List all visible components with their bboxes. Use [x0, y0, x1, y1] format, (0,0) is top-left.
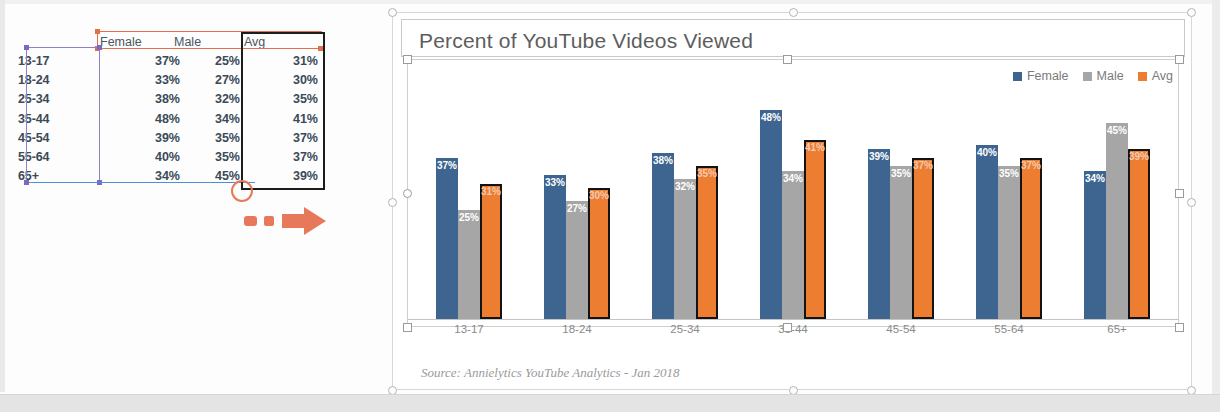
- bar-avg[interactable]: 41%: [804, 101, 826, 319]
- bar-value-label: 33%: [544, 177, 566, 188]
- bar-female[interactable]: 33%: [544, 101, 566, 319]
- bar-group[interactable]: 38%32%35%: [631, 101, 739, 319]
- table-header-cell: Male: [174, 35, 234, 49]
- bar-avg[interactable]: 30%: [588, 101, 610, 319]
- bar-male[interactable]: 35%: [890, 101, 912, 319]
- bar-fill: [1020, 158, 1042, 319]
- plot-selection-handle[interactable]: [403, 323, 412, 332]
- bar-avg[interactable]: 35%: [696, 101, 718, 319]
- plot-selection-handle[interactable]: [403, 189, 412, 198]
- x-axis-line: [407, 319, 1179, 320]
- bar-female[interactable]: 38%: [652, 101, 674, 319]
- bar-fill: [912, 158, 934, 319]
- bar-fill: [544, 175, 566, 319]
- table-cell-male[interactable]: 32%: [184, 92, 240, 106]
- table-cell-female[interactable]: 48%: [96, 112, 180, 126]
- bar-value-label: 40%: [976, 147, 998, 158]
- bar-value-label: 30%: [588, 190, 610, 201]
- x-axis-tick-label: 45-54: [847, 323, 955, 335]
- chart-legend[interactable]: FemaleMaleAvg: [1013, 69, 1173, 83]
- bar-value-label: 37%: [436, 160, 458, 171]
- object-resize-handle[interactable]: [388, 8, 397, 17]
- bar-group[interactable]: 33%27%30%: [523, 101, 631, 319]
- table-cell-male[interactable]: 27%: [184, 73, 240, 87]
- plot-selection-handle[interactable]: [403, 55, 412, 64]
- bar-female[interactable]: 48%: [760, 101, 782, 319]
- bar-female[interactable]: 40%: [976, 101, 998, 319]
- bar-male[interactable]: 45%: [1106, 101, 1128, 319]
- table-cell-male[interactable]: 34%: [184, 112, 240, 126]
- legend-item-male[interactable]: Male: [1083, 69, 1124, 83]
- bar-value-label: 25%: [458, 212, 480, 223]
- selection-handle[interactable]: [97, 45, 102, 50]
- selection-handle[interactable]: [24, 180, 29, 185]
- table-cell-female[interactable]: 37%: [96, 54, 180, 68]
- table-cell-female[interactable]: 38%: [96, 92, 180, 106]
- x-axis-tick-label: 18-24: [523, 323, 631, 335]
- table-cell-male[interactable]: 35%: [184, 150, 240, 164]
- plot-selection-handle[interactable]: [1175, 323, 1184, 332]
- bar-avg[interactable]: 37%: [912, 101, 934, 319]
- legend-label: Female: [1027, 69, 1069, 83]
- x-axis-tick-label: 13-17: [415, 323, 523, 335]
- bar-group[interactable]: 48%34%41%: [739, 101, 847, 319]
- value-range-selection-line: [32, 182, 255, 183]
- document-page: FemaleMaleAvg13-1737%25%31%18-2433%27%30…: [0, 0, 1220, 412]
- bar-male[interactable]: 27%: [566, 101, 588, 319]
- plot-selection-handle[interactable]: [1175, 189, 1184, 198]
- x-axis-tick-label: 55-64: [955, 323, 1063, 335]
- chart-title[interactable]: Percent of YouTube Videos Viewed: [419, 29, 753, 53]
- legend-item-avg[interactable]: Avg: [1138, 69, 1173, 83]
- bar-avg[interactable]: 31%: [480, 101, 502, 319]
- bar-female[interactable]: 39%: [868, 101, 890, 319]
- bar-avg[interactable]: 39%: [1128, 101, 1150, 319]
- table-cell-male[interactable]: 35%: [184, 131, 240, 145]
- bar-fill: [976, 145, 998, 319]
- bar-group[interactable]: 39%35%37%: [847, 101, 955, 319]
- header-selection-handle[interactable]: [95, 29, 100, 34]
- category-range-selection[interactable]: [26, 47, 100, 183]
- table-cell-female[interactable]: 40%: [96, 150, 180, 164]
- bar-group[interactable]: 34%45%39%: [1063, 101, 1171, 319]
- circle-highlight-annotation: [231, 180, 253, 202]
- bar-female[interactable]: 37%: [436, 101, 458, 319]
- bar-female[interactable]: 34%: [1084, 101, 1106, 319]
- x-axis-tick-label: 25-34: [631, 323, 739, 335]
- bar-male[interactable]: 35%: [998, 101, 1020, 319]
- x-axis-tick-label: 35-44: [739, 323, 847, 335]
- plot-selection-handle[interactable]: [783, 55, 792, 64]
- legend-item-female[interactable]: Female: [1013, 69, 1069, 83]
- bar-fill: [868, 149, 890, 319]
- plot-selection-handle[interactable]: [1175, 55, 1184, 64]
- table-cell-female[interactable]: 39%: [96, 131, 180, 145]
- bar-male[interactable]: 25%: [458, 101, 480, 319]
- bar-fill: [1106, 123, 1128, 319]
- bar-fill: [436, 158, 458, 319]
- bar-male[interactable]: 32%: [674, 101, 696, 319]
- table-cell-male[interactable]: 25%: [184, 54, 240, 68]
- legend-swatch-icon: [1013, 72, 1022, 81]
- page-top-edge: [0, 0, 1220, 4]
- bar-value-label: 32%: [674, 181, 696, 192]
- bar-group[interactable]: 37%25%31%: [415, 101, 523, 319]
- legend-swatch-icon: [1083, 72, 1092, 81]
- bar-value-label: 34%: [1084, 173, 1106, 184]
- object-resize-handle[interactable]: [1187, 198, 1196, 207]
- bar-male[interactable]: 34%: [782, 101, 804, 319]
- object-resize-handle[interactable]: [789, 8, 798, 17]
- page-bottom-strip: [0, 394, 1220, 412]
- bar-value-label: 35%: [696, 168, 718, 179]
- object-resize-handle[interactable]: [1187, 8, 1196, 17]
- bar-group[interactable]: 40%35%37%: [955, 101, 1063, 319]
- chart-object[interactable]: Percent of YouTube Videos Viewed FemaleM…: [392, 12, 1192, 390]
- data-table[interactable]: FemaleMaleAvg13-1737%25%31%18-2433%27%30…: [12, 14, 322, 186]
- bar-fill: [804, 140, 826, 319]
- table-cell-female[interactable]: 33%: [96, 73, 180, 87]
- plot-area[interactable]: 37%25%31%33%27%30%38%32%35%48%34%41%39%3…: [415, 101, 1171, 319]
- object-resize-handle[interactable]: [388, 198, 397, 207]
- bar-avg[interactable]: 37%: [1020, 101, 1042, 319]
- selection-handle[interactable]: [24, 45, 29, 50]
- plot-selection-handle[interactable]: [783, 323, 792, 332]
- table-header-cell: Female: [100, 35, 170, 49]
- bar-fill: [696, 166, 718, 319]
